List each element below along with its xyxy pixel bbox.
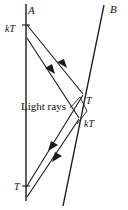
interval-t-bottom-left-label: T <box>14 182 20 192</box>
arrowhead-outbound-lower <box>52 152 62 162</box>
worldline-b-line <box>63 5 104 206</box>
light-ray-spacetime-figure: A B kT T T kT Light rays <box>0 0 128 210</box>
interval-t-right-label: T <box>86 96 92 106</box>
light-ray-inbound-upper <box>27 25 83 94</box>
worldline-a-label: A <box>28 5 35 16</box>
light-rays-annotation-label: Light rays <box>21 101 66 112</box>
arrowhead-outbound-upper <box>48 141 58 151</box>
worldline-b-label: B <box>110 4 117 15</box>
interval-kt-top-left-label: kT <box>5 24 15 34</box>
interval-kt-right-label: kT <box>84 119 94 129</box>
light-ray-outbound-lower <box>27 119 79 197</box>
